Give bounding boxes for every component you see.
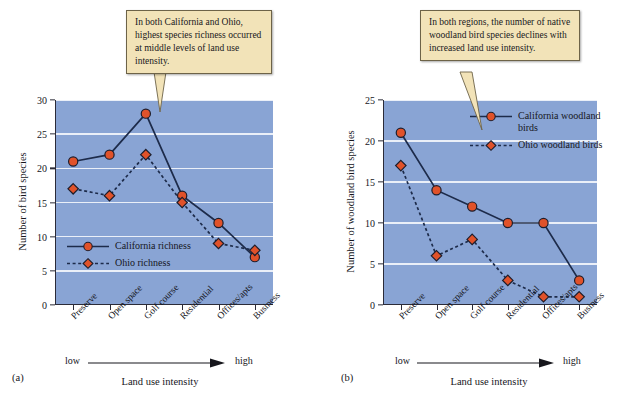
low-label-a: low	[65, 355, 80, 366]
y-tick-label: 10	[349, 218, 375, 229]
callout-tail-b	[420, 72, 530, 132]
low-label-b: low	[395, 355, 410, 366]
legend-label: California richness	[115, 240, 191, 252]
legend-label: California woodland birds	[518, 110, 604, 133]
data-point-diamond	[574, 292, 584, 302]
data-point-circle	[396, 128, 405, 137]
legend-key-dashed-diamond-icon	[66, 257, 110, 270]
legend-a: California richness Ohio richness	[66, 240, 191, 274]
legend-item: California richness	[66, 240, 191, 253]
data-point-diamond	[213, 238, 223, 248]
figure-root: In both California and Ohio, highest spe…	[0, 0, 634, 399]
panel-b: In both regions, the number of native wo…	[317, 0, 634, 399]
legend-label: Ohio woodland birds	[518, 139, 602, 151]
y-tick-mark	[378, 304, 383, 305]
series-line-diamond	[73, 155, 255, 251]
y-tick-label: 20	[21, 163, 47, 174]
intensity-arrow-a	[88, 358, 228, 368]
legend-item: Ohio woodland birds	[469, 139, 619, 152]
intensity-arrow-b	[417, 358, 557, 368]
x-axis-label-b: Land use intensity	[424, 376, 554, 387]
y-tick-mark	[50, 304, 55, 305]
series-line-diamond	[401, 166, 579, 297]
callout-annotation-b: In both regions, the number of native wo…	[420, 10, 580, 61]
high-label-b: high	[563, 355, 581, 366]
legend-key-solid-circle-icon	[66, 240, 110, 253]
data-point-diamond	[396, 160, 406, 170]
panel-tag-b: (b)	[341, 372, 353, 383]
high-label-a: high	[235, 355, 253, 366]
y-tick-label: 5	[21, 265, 47, 276]
y-tick-label: 15	[21, 197, 47, 208]
y-tick-mark	[50, 99, 55, 100]
data-point-diamond	[538, 292, 548, 302]
y-tick-mark	[50, 134, 55, 135]
y-tick-mark	[378, 140, 383, 141]
data-point-circle	[105, 150, 114, 159]
x-axis-label-a: Land use intensity	[95, 376, 225, 387]
y-tick-label: 25	[349, 95, 375, 106]
y-tick-mark	[378, 99, 383, 100]
legend-label: Ohio richness	[115, 257, 170, 269]
y-tick-mark	[50, 236, 55, 237]
data-point-diamond	[68, 184, 78, 194]
series-line-circle	[73, 114, 255, 258]
legend-key-dashed-diamond-icon	[469, 139, 513, 152]
data-point-circle	[69, 157, 78, 166]
data-point-circle	[539, 218, 548, 227]
y-tick-mark	[378, 263, 383, 264]
data-point-circle	[432, 186, 441, 195]
callout-tail-a	[126, 72, 226, 114]
y-tick-mark	[50, 270, 55, 271]
y-tick-label: 25	[21, 129, 47, 140]
callout-annotation-a: In both California and Ohio, highest spe…	[126, 10, 272, 74]
panel-tag-a: (a)	[12, 372, 24, 383]
y-tick-label: 20	[349, 136, 375, 147]
y-tick-mark	[378, 222, 383, 223]
y-tick-label: 30	[21, 95, 47, 106]
y-tick-label: 15	[349, 177, 375, 188]
y-tick-label: 0	[349, 300, 375, 311]
y-tick-mark	[378, 181, 383, 182]
y-tick-label: 5	[349, 259, 375, 270]
y-tick-label: 0	[21, 300, 47, 311]
data-point-circle	[575, 276, 584, 285]
data-point-circle	[214, 218, 223, 227]
data-point-circle	[503, 218, 512, 227]
y-tick-mark	[50, 202, 55, 203]
panel-a: In both California and Ohio, highest spe…	[0, 0, 317, 399]
data-point-circle	[468, 202, 477, 211]
y-tick-mark	[50, 168, 55, 169]
data-point-diamond	[431, 251, 441, 261]
y-tick-label: 10	[21, 231, 47, 242]
legend-item: Ohio richness	[66, 257, 191, 270]
